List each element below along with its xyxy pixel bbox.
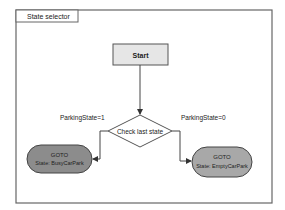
left-condition-label: ParkingState=1 xyxy=(60,114,105,122)
goto-busy-carpark-node[interactable]: GOTO State: BusyCarPark xyxy=(27,145,92,173)
start-node[interactable]: Start xyxy=(113,44,168,65)
frame-title: State selector xyxy=(27,13,70,20)
goto-empty-carpark-node[interactable]: GOTO State: EmptyCarPark xyxy=(192,147,252,177)
state-selector-diagram: State selector Start Check last state Pa… xyxy=(0,0,285,210)
goto-empty-line2: State: EmptyCarPark xyxy=(196,163,248,169)
goto-busy-line2: State: BusyCarPark xyxy=(35,160,84,166)
right-condition-label: ParkingState=0 xyxy=(181,114,226,122)
goto-busy-line1: GOTO xyxy=(51,152,69,158)
start-label: Start xyxy=(133,52,150,59)
goto-empty-line1: GOTO xyxy=(213,154,231,160)
decision-label: Check last state xyxy=(117,128,164,135)
